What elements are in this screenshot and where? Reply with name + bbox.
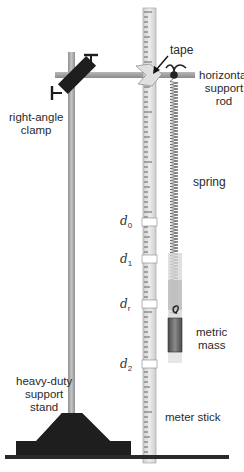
d-subscript: r xyxy=(128,304,131,313)
label-spring: spring xyxy=(193,176,226,189)
metric-mass xyxy=(168,318,182,352)
d-symbol: d xyxy=(120,357,128,371)
label-horizontal-support-rod: horizontal support rod xyxy=(199,69,244,108)
label-line: support xyxy=(199,82,244,95)
label-line: mass xyxy=(196,339,227,352)
label-line: heavy-duty xyxy=(16,375,72,388)
label-line: right-angle xyxy=(9,111,63,124)
label-d1: d1 xyxy=(120,252,132,268)
label-line: support xyxy=(16,388,72,401)
table-surface xyxy=(5,455,229,459)
d-symbol: d xyxy=(120,297,128,311)
label-meter-stick: meter stick xyxy=(165,411,221,424)
d-subscript: 1 xyxy=(128,259,132,268)
label-line: horizontal xyxy=(199,69,244,82)
label-heavy-duty-support-stand: heavy-duty support stand xyxy=(16,375,72,414)
label-metric-mass: metric mass xyxy=(196,326,227,352)
label-d2: d2 xyxy=(120,357,132,373)
label-dr: dr xyxy=(120,297,130,313)
d-symbol: d xyxy=(120,214,128,228)
label-line: stand xyxy=(16,401,72,414)
label-line: clamp xyxy=(9,124,63,137)
support-stand-base xyxy=(16,413,131,455)
d-symbol: d xyxy=(120,252,128,266)
label-line: rod xyxy=(199,95,244,108)
label-right-angle-clamp: right-angle clamp xyxy=(9,111,63,137)
d-subscript: 0 xyxy=(128,221,132,230)
vertical-support-rod xyxy=(68,52,75,422)
label-d0: d0 xyxy=(120,214,132,230)
d-subscript: 2 xyxy=(128,364,132,373)
label-line: metric xyxy=(196,326,227,339)
label-tape: tape xyxy=(170,44,193,57)
